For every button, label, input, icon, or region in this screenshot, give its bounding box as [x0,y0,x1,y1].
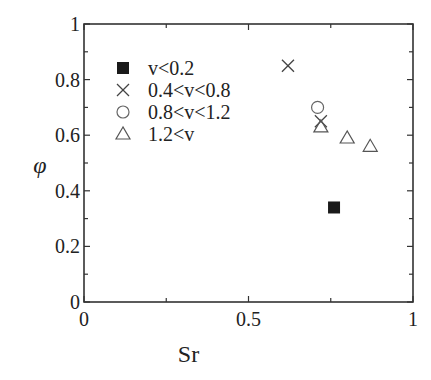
plot-frame [84,24,413,302]
legend-marker [116,127,130,139]
data-point [363,139,377,151]
y-tick-label: 0 [70,291,80,313]
legend-label: 0.4<v<0.8 [148,79,231,101]
x-tick-label: 1 [408,308,418,330]
data-point [312,101,324,113]
y-tick-label: 0.8 [55,69,80,91]
chart: 00.5100.20.40.60.81Srφv<0.20.4<v<0.80.8<… [0,0,431,380]
scatter-plot: 00.5100.20.40.60.81Srφv<0.20.4<v<0.80.8<… [0,0,431,380]
x-axis-label: Sr [178,341,199,367]
legend-marker [117,106,129,118]
y-tick-label: 0.2 [55,235,80,257]
legend-label: 0.8<v<1.2 [148,101,231,123]
y-axis-label: φ [33,152,46,178]
data-point [328,201,340,213]
x-tick-label: 0.5 [236,308,261,330]
y-tick-label: 1 [70,13,80,35]
legend-label: v<0.2 [148,57,194,79]
x-tick-label: 0 [79,308,89,330]
data-point [340,131,354,143]
y-tick-label: 0.6 [55,124,80,146]
legend-marker [117,62,129,74]
y-tick-label: 0.4 [55,180,80,202]
legend-label: 1.2<v [148,123,194,145]
